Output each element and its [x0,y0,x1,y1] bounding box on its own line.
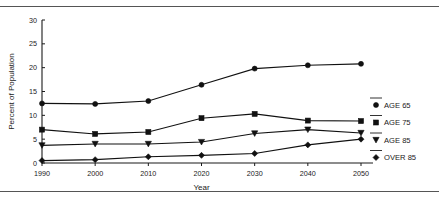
data-point-square [305,118,310,123]
data-point-diamond [305,142,311,148]
x-axis-title: Year [193,183,210,190]
legend-label: AGE 75 [384,118,411,127]
data-point-circle [359,61,364,66]
x-tick-label: 2030 [247,169,263,178]
x-tick-label: 1990 [34,169,50,178]
y-tick-label: 0 [33,159,37,168]
y-tick-label: 20 [29,63,37,72]
data-point-circle [305,63,310,68]
data-point-square [40,127,45,132]
bottom-divider-rule [0,191,439,192]
chart-legend: AGE 65AGE 75AGE 85OVER 85 [370,98,416,162]
data-point-square [199,116,204,121]
data-point-diamond [358,136,364,142]
y-tick-label: 15 [29,87,37,96]
y-axis-title: Percent of Population [7,53,16,130]
data-point-circle [146,99,151,104]
y-tick-label: 10 [29,111,37,120]
data-point-circle [93,101,98,106]
data-point-circle [252,66,257,71]
legend-label: OVER 85 [384,153,416,162]
y-tick-label: 30 [29,16,37,25]
data-point-circle [199,82,204,87]
legend-label: AGE 65 [384,101,411,110]
y-axis-tick-labels: 051015202530 [29,16,37,168]
top-divider-rule [0,6,439,7]
x-tick-label: 2040 [300,169,316,178]
data-point-square [93,131,98,136]
legend-item-age-75[interactable]: AGE 75 [370,116,411,128]
data-point-square [252,111,257,116]
data-point-diamond [252,150,258,156]
legend-label: AGE 85 [384,136,411,145]
data-point-triangle [373,137,379,143]
data-point-square [146,130,151,135]
legend-item-over-85[interactable]: OVER 85 [370,151,416,163]
data-point-diamond [199,152,205,158]
x-axis-tick-labels: 1990200020102020203020402050 [34,169,369,178]
x-tick-label: 2000 [87,169,103,178]
figure-container: 051015202530 199020002010202020302040205… [0,0,439,198]
series-age-65 [40,61,364,106]
data-point-diamond [145,154,151,160]
legend-item-age-65[interactable]: AGE 65 [370,98,411,110]
data-point-circle [40,101,45,106]
data-point-circle [374,103,379,108]
data-point-square [359,119,364,124]
x-tick-label: 2050 [353,169,369,178]
data-point-diamond [92,157,98,163]
y-tick-label: 25 [29,39,37,48]
y-tick-label: 5 [33,135,37,144]
x-tick-label: 2010 [140,169,156,178]
x-tick-label: 2020 [194,169,210,178]
data-series-group [39,61,364,163]
data-point-square [374,120,379,125]
series-age-85 [39,127,364,148]
x-axis: 1990200020102020203020402050 [34,163,373,178]
line-chart: 051015202530 199020002010202020302040205… [0,8,439,190]
data-point-diamond [373,155,379,161]
legend-item-age-85[interactable]: AGE 85 [370,133,411,145]
series-age-75 [40,111,364,136]
